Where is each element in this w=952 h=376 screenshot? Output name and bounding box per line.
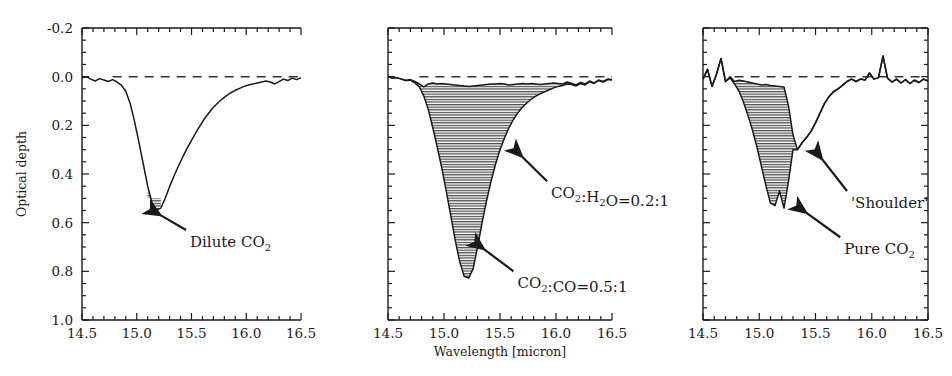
x-tick-label: 14.5 (373, 325, 403, 341)
annotation-label: Pure CO2 (844, 240, 915, 260)
y-tick-label: 1.0 (52, 312, 73, 328)
panel-1: 14.515.015.516.016.5-0.20.00.20.40.60.81… (14, 20, 316, 341)
x-tick-label: 15.5 (176, 325, 206, 341)
y-tick-label: 0.4 (52, 166, 73, 182)
annotation-label: 'Shoulder' (851, 194, 928, 212)
spectrum-curve (82, 77, 301, 210)
x-tick-label: 16.5 (913, 325, 943, 341)
x-tick-label: 16.5 (597, 325, 627, 341)
x-tick-label: 16.0 (541, 325, 571, 341)
y-tick-label: 0.6 (52, 215, 73, 231)
annotation-label: Dilute CO2 (190, 233, 271, 253)
annotation-arrow (161, 215, 186, 230)
y-axis-title: Optical depth (14, 131, 29, 217)
x-tick-label: 16.0 (231, 325, 261, 341)
hatched-fill-region (703, 56, 928, 208)
panel-3: 14.515.015.516.016.5'Shoulder'Pure CO2 (688, 28, 943, 341)
x-tick-label: 15.0 (429, 325, 459, 341)
y-tick-label: 0.2 (52, 117, 73, 133)
x-tick-label: 15.0 (744, 325, 774, 341)
annotation-arrow (522, 157, 547, 181)
spectrum-curve-upper (703, 56, 928, 150)
panel-2: 14.515.015.516.016.5Wavelength [micron]C… (373, 28, 669, 359)
x-tick-label: 15.0 (122, 325, 152, 341)
spectrum-curve-lower (703, 56, 928, 208)
x-tick-label: 15.5 (485, 325, 515, 341)
x-tick-label: 15.5 (800, 325, 830, 341)
annotation-arrow (822, 159, 847, 191)
spectra-figure: 14.515.015.516.016.5-0.20.00.20.40.60.81… (0, 0, 952, 376)
annotation-arrow (484, 249, 513, 271)
x-tick-label: 16.0 (857, 325, 887, 341)
x-tick-label: 16.5 (286, 325, 316, 341)
y-tick-label: 0.0 (52, 69, 73, 85)
annotation-arrow (807, 213, 841, 237)
annotation-label: CO2:CO=0.5:1 (517, 274, 627, 296)
annotation-label: CO2:H2O=0.2:1 (551, 184, 669, 210)
hatched-fill-region (388, 77, 612, 278)
y-tick-label: 0.8 (52, 263, 73, 279)
x-tick-label: 14.5 (688, 325, 718, 341)
x-axis-title: Wavelength [micron] (434, 344, 566, 359)
figure-container: 14.515.015.516.016.5-0.20.00.20.40.60.81… (0, 0, 952, 376)
y-tick-label: -0.2 (47, 20, 73, 36)
